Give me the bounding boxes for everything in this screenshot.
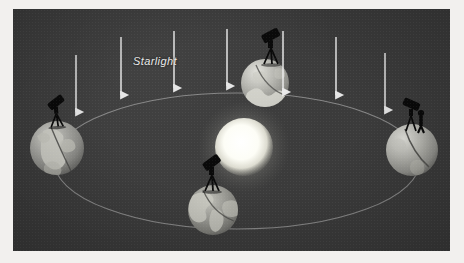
starlight-arrows: [76, 29, 385, 112]
diagram-canvas: [13, 9, 450, 251]
night-sky-plate: Starlight: [13, 9, 450, 251]
earth-right: [386, 97, 438, 176]
earth-top: [241, 27, 289, 112]
starlight-label: Starlight: [133, 55, 177, 67]
parallax-figure: Starlight: [0, 0, 464, 263]
